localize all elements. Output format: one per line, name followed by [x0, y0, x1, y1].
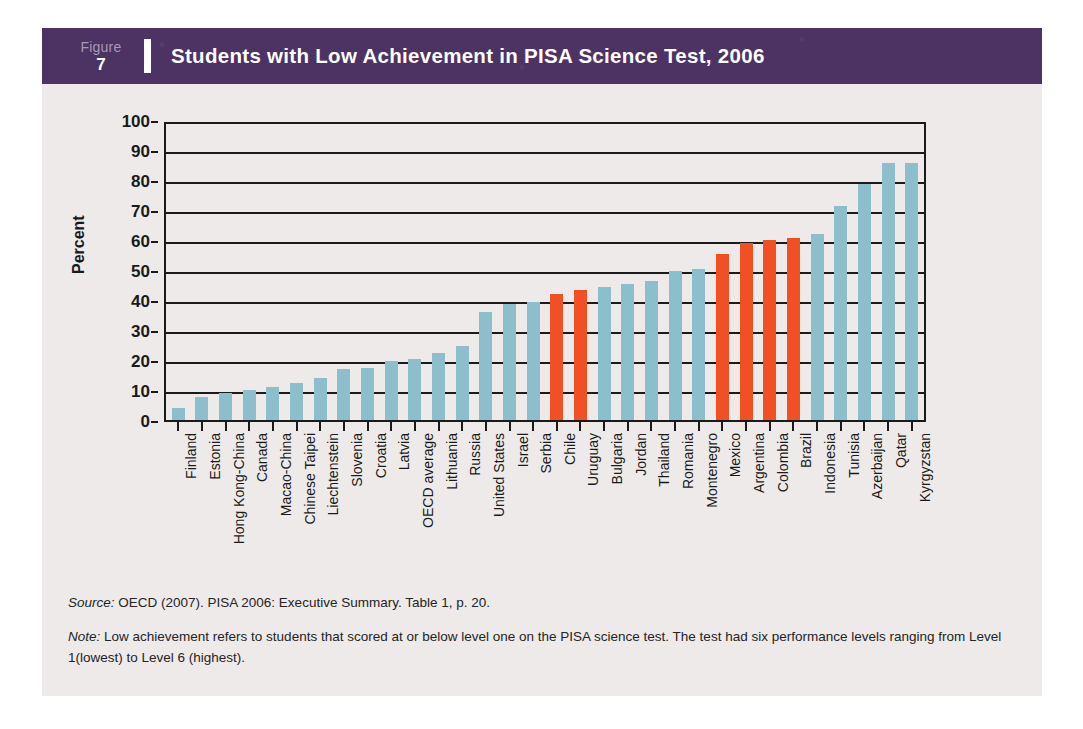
y-axis-tick-label: 0	[141, 412, 150, 432]
y-axis-tick-mark	[151, 151, 158, 153]
bar	[645, 281, 658, 420]
y-axis-tick-label: 60	[131, 232, 150, 252]
x-axis-ticks	[167, 422, 924, 431]
x-axis-label-slot: Montenegro	[692, 433, 705, 583]
chart-area: Percent 0102030405060708090100 FinlandEs…	[42, 84, 1042, 584]
x-axis-label-slot: Mexico	[716, 433, 729, 583]
figure-number-block: Figure 7	[60, 40, 142, 73]
plot-wrap	[164, 122, 926, 422]
bar	[811, 234, 824, 420]
y-axis-tick-mark	[151, 301, 158, 303]
x-axis-tick-mark	[674, 422, 676, 431]
x-axis-tick-mark	[816, 422, 818, 431]
x-axis-tick-mark	[769, 422, 771, 431]
x-axis-tick-mark	[201, 422, 203, 431]
x-axis-tick-mark	[792, 422, 794, 431]
x-axis-tick-mark	[319, 422, 321, 431]
bar	[314, 378, 327, 419]
x-axis-tick-mark	[698, 422, 700, 431]
bar	[763, 240, 776, 420]
bar	[290, 383, 303, 420]
x-axis-tick-mark	[225, 422, 227, 431]
x-axis-tick-mark	[509, 422, 511, 431]
x-axis-tick-mark	[296, 422, 298, 431]
x-axis-label-slot: Colombia	[763, 433, 776, 583]
y-axis-labels: 0102030405060708090100	[102, 122, 158, 422]
y-axis-tick-mark	[151, 211, 158, 213]
x-axis-label-slot: Estonia	[195, 433, 208, 583]
x-axis-tick-mark	[603, 422, 605, 431]
y-axis-tick-mark	[151, 331, 158, 333]
x-axis-label-slot: Russia	[456, 433, 469, 583]
figure-card: Figure 7 Students with Low Achievement i…	[42, 28, 1042, 696]
bar	[503, 304, 516, 419]
x-axis-tick-mark	[272, 422, 274, 431]
x-axis-label-slot: Chinese Taipei	[290, 433, 303, 583]
page-title: Students with Low Achievement in PISA Sc…	[171, 44, 765, 68]
bar	[669, 271, 682, 420]
y-axis-tick-mark	[151, 421, 158, 423]
x-axis-tick-mark	[911, 422, 913, 431]
x-axis-tick-mark	[887, 422, 889, 431]
y-axis-tick-mark	[151, 181, 158, 183]
x-axis-tick-mark	[556, 422, 558, 431]
y-axis-tick-label: 40	[131, 292, 150, 312]
x-axis-label-slot: Qatar	[882, 433, 895, 583]
x-axis-label-slot: Macao-China	[266, 433, 279, 583]
bar	[172, 408, 185, 420]
x-axis-tick-mark	[177, 422, 179, 431]
x-axis-tick-mark	[840, 422, 842, 431]
y-axis-tick-mark	[151, 361, 158, 363]
x-axis-tick-mark	[343, 422, 345, 431]
x-axis-label-slot: Azerbaijan	[858, 433, 871, 583]
source-label: Source:	[68, 595, 115, 610]
x-axis-label-slot: Brazil	[787, 433, 800, 583]
bar	[361, 368, 374, 420]
bar	[432, 353, 445, 419]
x-axis-label-slot: Kyrgyzstan	[905, 433, 918, 583]
bar	[905, 163, 918, 420]
x-axis-label-slot: Canada	[243, 433, 256, 583]
x-axis-tick-mark	[863, 422, 865, 431]
x-axis-tick-mark	[650, 422, 652, 431]
x-axis-label-slot: Jordan	[621, 433, 634, 583]
bar	[243, 390, 256, 420]
x-axis-tick-mark	[390, 422, 392, 431]
figure-header-band: Figure 7 Students with Low Achievement i…	[42, 28, 1042, 84]
x-axis-label-slot: Romania	[669, 433, 682, 583]
note-line: Note: Low achievement refers to students…	[68, 627, 1023, 668]
figure-number-label: 7	[60, 56, 142, 73]
bar	[740, 243, 753, 420]
source-text: OECD (2007). PISA 2006: Executive Summar…	[115, 595, 490, 610]
bar-series	[167, 125, 924, 420]
x-axis-label-slot: Israel	[503, 433, 516, 583]
x-axis-label-slot: Latvia	[385, 433, 398, 583]
x-axis-label-slot: OECD average	[408, 433, 421, 583]
bar	[882, 163, 895, 420]
x-axis-tick-label: Kyrgyzstan	[917, 433, 933, 502]
x-axis-tick-mark	[485, 422, 487, 431]
x-axis-label-slot: Hong Kong-China	[219, 433, 232, 583]
x-axis-label-slot: Bulgaria	[598, 433, 611, 583]
bar	[385, 361, 398, 420]
x-axis-tick-mark	[367, 422, 369, 431]
source-line: Source: OECD (2007). PISA 2006: Executiv…	[68, 593, 1023, 613]
x-axis-tick-mark	[414, 422, 416, 431]
y-axis-tick-mark	[151, 391, 158, 393]
x-axis-tick-mark	[461, 422, 463, 431]
x-axis-tick-mark	[745, 422, 747, 431]
x-axis-label-slot: Slovenia	[337, 433, 350, 583]
y-axis-tick-label: 70	[131, 202, 150, 222]
x-axis-label-slot: Lithuania	[432, 433, 445, 583]
y-axis-tick-label: 90	[131, 142, 150, 162]
x-axis-label-slot: Argentina	[740, 433, 753, 583]
bar	[598, 287, 611, 420]
bar	[692, 269, 705, 419]
x-axis-label-slot: Thailand	[645, 433, 658, 583]
y-axis-title: Percent	[70, 215, 88, 274]
bar	[787, 238, 800, 419]
bar	[574, 290, 587, 420]
x-axis-tick-mark	[532, 422, 534, 431]
x-axis-label-slot: Finland	[172, 433, 185, 583]
header-divider	[144, 39, 151, 73]
